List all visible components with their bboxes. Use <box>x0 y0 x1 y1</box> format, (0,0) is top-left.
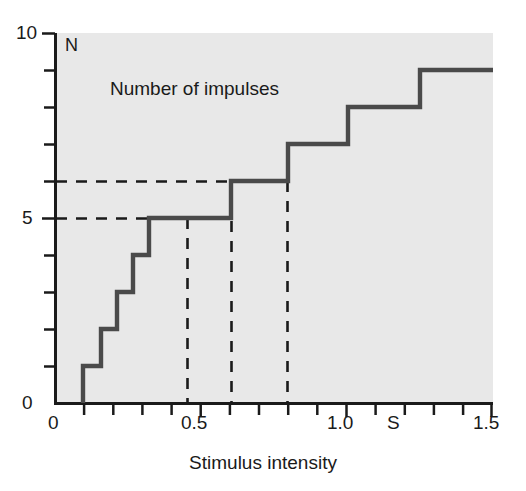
x-tick-label-0: 0 <box>48 412 59 434</box>
x-tick-label-0-5: 0.5 <box>181 412 207 434</box>
y-axis-ticks <box>42 34 55 367</box>
x-tick-label-1-5: 1.5 <box>473 412 499 434</box>
y-tick-label-0: 0 <box>22 392 33 414</box>
x-axis-ticks <box>84 404 491 417</box>
x-tick-label-1-0: 1.0 <box>327 412 353 434</box>
plot-annotation: Number of impulses <box>110 78 279 100</box>
x-axis-title: Stimulus intensity <box>0 452 526 474</box>
x-axis-symbol-label: S <box>387 412 400 434</box>
chart-figure: 10 5 0 0 0.5 1.0 1.5 S N Number of impul… <box>0 0 526 491</box>
y-tick-label-10: 10 <box>16 22 37 44</box>
step-chart-plot <box>0 0 526 491</box>
y-axis-symbol-label: N <box>65 35 78 56</box>
y-tick-label-5: 5 <box>22 207 33 229</box>
